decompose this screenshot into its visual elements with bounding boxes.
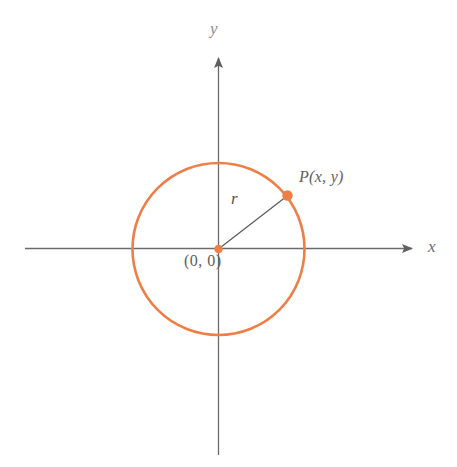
y-axis-label: y — [210, 20, 218, 37]
coordinate-circle-figure: y x r P(x, y) (0, 0) — [0, 0, 457, 467]
point-p-label: P(x, y) — [299, 169, 344, 185]
x-axis-label: x — [428, 238, 436, 255]
figure-canvas — [0, 0, 457, 467]
point-p-marker — [282, 190, 292, 200]
radius-line — [219, 196, 288, 249]
radius-label: r — [231, 190, 238, 207]
origin-label: (0, 0) — [184, 253, 222, 269]
